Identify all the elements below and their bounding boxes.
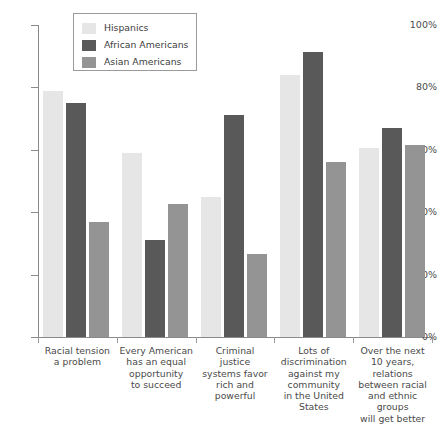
x-axis-category-label: Over the next10 years,relationsbetween r… [353,345,432,424]
bar [224,115,244,337]
bar [247,254,267,337]
legend-item-asian-americans: Asian Americans [82,54,196,70]
category-label-line: has an equal [117,356,196,367]
category-label-line: States [274,401,353,412]
category-label-line: groups [353,401,432,412]
category-label-line: rich and [196,379,275,390]
x-axis-group-separator-tick [38,337,39,343]
category-label-line: in the United [274,390,353,401]
x-axis-group-separator-tick [353,337,354,343]
bar [201,197,221,337]
legend-label-asian-americans: Asian Americans [104,57,181,66]
x-axis-group-separator-tick [117,337,118,343]
legend-item-hispanics: Hispanics [82,20,196,36]
bar [280,75,300,337]
category-label-line: community [274,379,353,390]
x-axis-category-label: Criminaljusticesystems favorrich andpowe… [196,345,275,401]
bar [43,91,63,337]
plot-area [38,25,432,337]
legend-swatch-icon-african-americans [82,40,96,51]
category-label-line: powerful [196,390,275,401]
x-axis-group-separator-tick [196,337,197,343]
category-label-line: 10 years, [353,356,432,367]
bar [89,222,109,337]
category-label-line: Over the next [353,345,432,356]
category-label-line: justice [196,356,275,367]
bar [405,145,425,337]
category-label-line: will get better [353,413,432,424]
bar [145,240,165,337]
category-label-line: Racial tension [38,345,117,356]
category-label-line: Lots of [274,345,353,356]
category-label-line: to succeed [117,379,196,390]
category-label-line: against my [274,368,353,379]
legend: Hispanics African Americans Asian Americ… [73,13,197,71]
x-axis-category-label: Every Americanhas an equalopportunityto … [117,345,196,390]
x-axis-category-label: Lots ofdiscriminationagainst mycommunity… [274,345,353,413]
legend-item-african-americans: African Americans [82,37,196,53]
category-label-line: Criminal [196,345,275,356]
legend-swatch-icon-hispanics [82,23,96,34]
bar [303,52,323,337]
legend-swatch-icon-asian-americans [82,57,96,68]
bar [168,204,188,337]
x-axis-group-separator-tick [432,337,433,343]
bar [359,148,379,337]
bar [326,162,346,337]
category-label-line: discrimination [274,356,353,367]
category-label-line: and ethnic [353,390,432,401]
category-label-line: systems favor [196,368,275,379]
bar-chart: 0%20%40%60%80%100% Racial tensiona probl… [0,0,437,438]
legend-label-african-americans: African Americans [104,40,188,49]
x-axis-category-label: Racial tensiona problem [38,345,117,368]
category-label-line: relations [353,368,432,379]
category-label-line: between racial [353,379,432,390]
legend-label-hispanics: Hispanics [104,23,148,32]
x-axis-line [38,337,432,338]
category-label-line: Every American [117,345,196,356]
bar [66,103,86,337]
x-axis-group-separator-tick [274,337,275,343]
bar [122,153,142,337]
category-label-line: a problem [38,356,117,367]
category-label-line: opportunity [117,368,196,379]
bar [382,128,402,337]
